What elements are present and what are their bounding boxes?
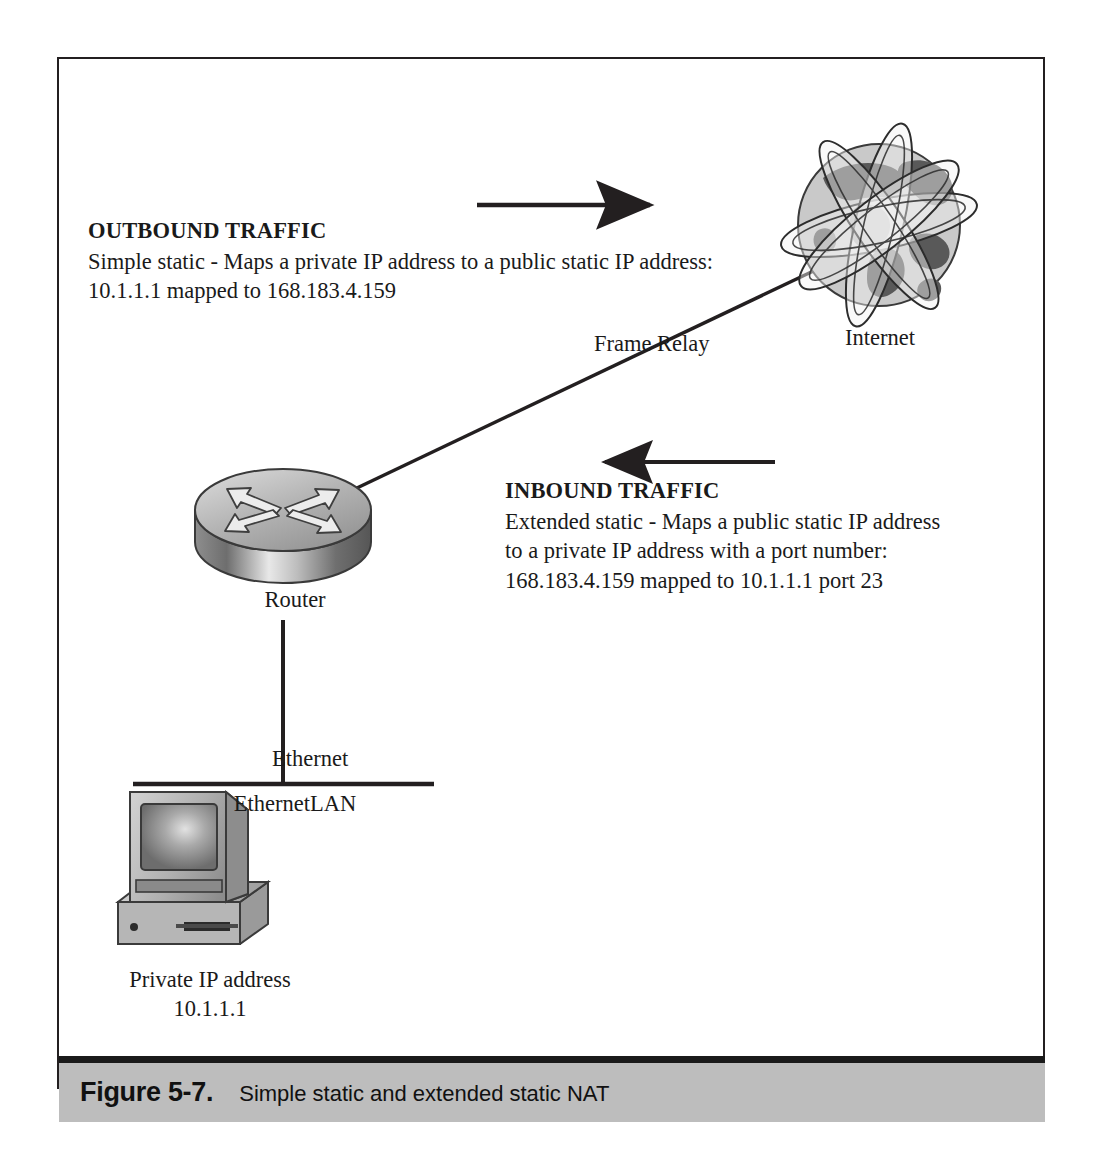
figure-caption-label: Figure 5-7. — [80, 1077, 213, 1108]
inbound-traffic-block: INBOUND TRAFFIC Extended static - Maps a… — [505, 476, 940, 596]
inbound-traffic-line-1: Extended static - Maps a public static I… — [505, 507, 940, 537]
router-icon — [195, 469, 371, 583]
ethernet-lan-label: EthernetLAN — [160, 790, 430, 819]
figure-caption-band: Figure 5-7. Simple static and extended s… — [59, 1056, 1045, 1122]
figure-caption-text: Simple static and extended static NAT — [239, 1081, 609, 1107]
internet-globe-icon — [776, 118, 982, 331]
outbound-traffic-block: OUTBOUND TRAFFIC Simple static - Maps a … — [88, 216, 713, 306]
outbound-traffic-line-2: 10.1.1.1 mapped to 168.183.4.159 — [88, 276, 713, 306]
outbound-traffic-title: OUTBOUND TRAFFIC — [88, 216, 713, 246]
workstation-node-label: Private IP address 10.1.1.1 — [70, 966, 350, 1024]
internet-node-label: Internet — [800, 324, 960, 353]
inbound-traffic-title: INBOUND TRAFFIC — [505, 476, 940, 506]
frame-relay-link-label: Frame Relay — [594, 330, 794, 359]
router-node-label: Router — [215, 586, 375, 615]
workstation-label-line-2: 10.1.1.1 — [70, 995, 350, 1024]
inbound-traffic-line-3: 168.183.4.159 mapped to 10.1.1.1 port 23 — [505, 566, 940, 596]
outbound-traffic-line-1: Simple static - Maps a private IP addres… — [88, 247, 713, 277]
workstation-label-line-1: Private IP address — [70, 966, 350, 995]
ethernet-link-label: Ethernet — [272, 745, 472, 774]
inbound-traffic-line-2: to a private IP address with a port numb… — [505, 536, 940, 566]
